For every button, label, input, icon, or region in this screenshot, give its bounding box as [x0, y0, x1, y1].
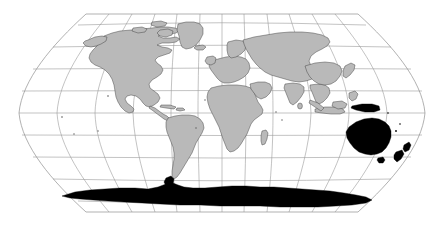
land-sri-lanka[interactable] [298, 103, 303, 109]
island-dot-atlantic-1 [204, 99, 205, 100]
island-dot-hawaii [107, 95, 109, 97]
island-dot-indian-1 [281, 119, 282, 120]
island-dot-pacific-2 [73, 133, 74, 134]
island-dot-au-1 [395, 130, 397, 132]
island-dot-pacific-3 [97, 130, 98, 131]
island-dot-pacific-1 [61, 116, 63, 118]
land-tasmania[interactable] [377, 157, 385, 163]
world-map-figure [0, 0, 444, 226]
island-dot-atlantic-2 [195, 127, 196, 128]
island-dot-indian-2 [275, 111, 276, 112]
island-dot-au-2 [399, 123, 401, 125]
island-dot-au-3 [387, 112, 389, 114]
world-map-canvas[interactable] [0, 0, 444, 226]
